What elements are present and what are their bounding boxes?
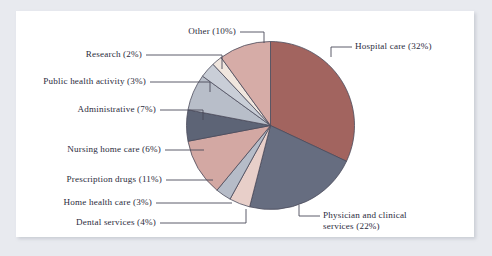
pie-label-other: Other (10%) <box>150 26 236 37</box>
pie-label-prescription-drugs: Prescription drugs (11%) <box>26 174 162 185</box>
pie-label-administrative: Administrative (7%) <box>40 104 156 115</box>
pie-label-research: Research (2%) <box>36 49 142 60</box>
pie-label-hospital-care: Hospital care (32%) <box>355 41 432 52</box>
pie-label-public-health-activity: Public health activity (3%) <box>16 76 146 87</box>
pie-label-home-health-care: Home health care (3%) <box>24 197 152 208</box>
pie-wedge-group <box>187 42 355 210</box>
pie-label-dental-services: Dental services (4%) <box>28 217 156 228</box>
pie-label-nursing-home-care: Nursing home care (6%) <box>30 144 161 155</box>
pie-label-physician-line1: Physician and clinical <box>323 210 407 221</box>
pie-label-physician-line2: services (22%) <box>323 221 380 232</box>
pie-plot-area: Hospital care (32%) Physician and clinic… <box>0 0 492 256</box>
pie-chart-figure: Hospital care (32%) Physician and clinic… <box>0 0 492 256</box>
